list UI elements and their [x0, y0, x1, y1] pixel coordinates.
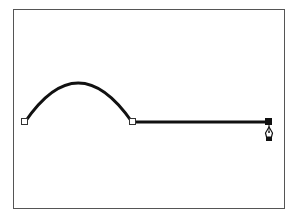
drawing-canvas[interactable] — [0, 0, 298, 215]
anchor-point-2[interactable] — [130, 119, 136, 125]
artboard-frame — [14, 10, 285, 209]
anchor-point-3-selected[interactable] — [266, 119, 272, 125]
anchor-point-1[interactable] — [22, 119, 28, 125]
